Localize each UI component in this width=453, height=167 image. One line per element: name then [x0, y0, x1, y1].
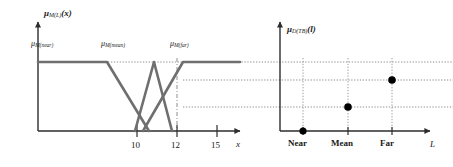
curve-label-far-subscript: M(far): [174, 42, 189, 48]
category-label-near: Near: [288, 139, 307, 148]
left-readout-dotted-lines: [82, 62, 453, 107]
left-y-axis-label-argument: (x): [61, 8, 72, 18]
x-tick-label-15: 15: [211, 141, 220, 150]
curve-mu-near: [38, 62, 149, 131]
curve-label-near: μM(near): [31, 40, 53, 49]
right-y-axis-label-argument: (l): [307, 24, 316, 34]
datapoint-near: [299, 127, 306, 134]
datapoint-far: [388, 76, 396, 84]
right-y-axis-label: μD(TB)(l): [287, 25, 316, 34]
right-chart-group: [280, 22, 430, 135]
left-x-axis-name: x: [236, 140, 240, 149]
curve-label-mean-subscript: M(mean): [105, 42, 125, 48]
left-y-axis-label: μM(L)(x): [44, 9, 72, 18]
figure-canvas: μM(L)(x) μM(near) μM(mean) μM(far) 10 12…: [0, 0, 453, 167]
category-label-far: Far: [380, 139, 394, 148]
curve-label-mean: μM(mean): [101, 40, 125, 49]
right-y-axis-label-subscript: D(TB): [292, 28, 307, 34]
curve-label-far: μM(far): [170, 40, 189, 49]
datapoint-mean: [344, 103, 352, 111]
right-category-gridlines: [303, 58, 392, 131]
curve-mu-mean: [135, 62, 172, 131]
curve-label-near-subscript: M(near): [35, 42, 53, 48]
left-y-axis-label-subscript: M(L): [49, 12, 61, 18]
x-tick-label-12: 12: [171, 141, 180, 150]
x-tick-label-10: 10: [131, 141, 140, 150]
category-label-mean: Mean: [331, 139, 353, 148]
right-x-axis-name: L: [430, 140, 435, 149]
